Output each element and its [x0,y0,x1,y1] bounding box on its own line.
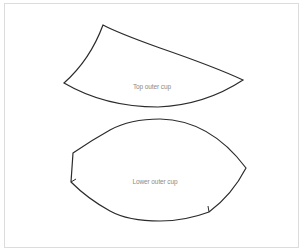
top-outer-cup-label: Top outer cup [133,83,171,90]
bottom-notch-mark [208,206,209,212]
lower-outer-cup-label: Lower outer cup [132,178,177,185]
top-outer-cup-outline [64,25,243,107]
lower-outer-cup-outline [71,119,246,221]
